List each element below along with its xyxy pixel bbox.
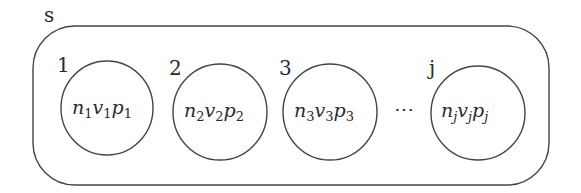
- set-3: 3 n3v3p3: [279, 56, 377, 160]
- set-j-index-label: j: [427, 56, 435, 80]
- set-1: 1 n1v1p1: [57, 53, 153, 155]
- set-j-content: njvjpj: [441, 99, 488, 124]
- set-2-index-label: 2: [169, 56, 182, 80]
- set-2: 2 n2v2p2: [169, 56, 267, 160]
- set-3-index-label: 3: [279, 56, 292, 80]
- set-1-content: n1v1p1: [72, 96, 132, 121]
- ellipsis: ⋯: [394, 97, 414, 121]
- set-3-content: n3v3p3: [294, 99, 354, 124]
- set-2-content: n2v2p2: [184, 99, 244, 124]
- container-label: s: [44, 3, 54, 27]
- set-diagram: s 1 n1v1p1 2 n2v2p2 3 n3v3p3 ⋯ j njvjpj: [0, 0, 581, 193]
- set-1-index-label: 1: [57, 53, 70, 77]
- set-j: j njvjpj: [427, 56, 525, 160]
